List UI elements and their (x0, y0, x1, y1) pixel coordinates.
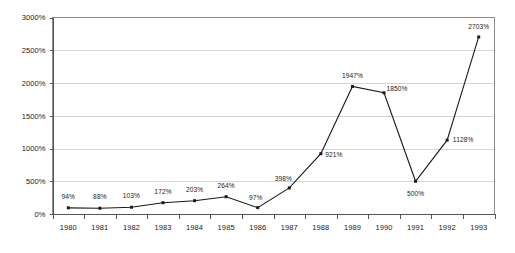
data-point-label-1990: 1850% (386, 85, 407, 92)
data-point-label-1988: 921% (325, 151, 342, 158)
data-point-marker-1993 (477, 35, 480, 38)
data-point-label-1980: 94% (62, 193, 76, 200)
x-axis-label-1982: 1982 (123, 223, 140, 232)
x-axis-label-1986: 1986 (249, 223, 266, 232)
data-point-label-1984: 203% (186, 186, 203, 193)
x-axis-label-1989: 1989 (344, 223, 361, 232)
data-point-marker-1983 (162, 201, 165, 204)
data-point-label-1982: 103% (123, 192, 140, 199)
line-chart: 0%500%1000%1500%2000%2500%3000% 19801981… (0, 0, 515, 253)
data-point-marker-1982 (130, 206, 133, 209)
x-axis-label-1992: 1992 (439, 223, 456, 232)
x-axis-label-1993: 1993 (470, 223, 487, 232)
x-axis-label-1988: 1988 (312, 223, 329, 232)
data-point-marker-1990 (383, 91, 386, 94)
data-point-label-1991: 500% (407, 190, 424, 197)
x-axis-label-1984: 1984 (186, 223, 203, 232)
data-point-label-1993: 2703% (468, 23, 489, 30)
data-point-label-1985: 264% (218, 182, 235, 189)
data-point-marker-1992 (446, 139, 449, 142)
y-axis-label-2000: 2000% (22, 79, 46, 88)
x-axis-label-1983: 1983 (154, 223, 171, 232)
data-point-marker-1991 (414, 180, 417, 183)
data-point-marker-1984 (193, 199, 196, 202)
data-point-label-1992: 1128% (453, 136, 474, 143)
x-axis-label-1987: 1987 (281, 223, 298, 232)
data-point-marker-1985 (225, 195, 228, 198)
data-point-marker-1989 (351, 85, 354, 88)
chart-background (0, 0, 515, 253)
y-axis-label-1500: 1500% (22, 112, 46, 121)
data-point-label-1989: 1947% (342, 72, 363, 79)
data-point-label-1983: 172% (154, 188, 171, 195)
data-point-marker-1981 (98, 207, 101, 210)
data-point-label-1981: 88% (93, 193, 107, 200)
y-axis-label-3000: 3000% (22, 13, 46, 22)
chart-canvas: 0%500%1000%1500%2000%2500%3000% 19801981… (0, 0, 515, 253)
x-axis-label-1980: 1980 (60, 223, 77, 232)
x-axis-label-1981: 1981 (91, 223, 108, 232)
y-axis-label-0: 0% (34, 210, 45, 219)
data-point-label-1986: 97% (249, 194, 263, 201)
y-axis-label-500: 500% (26, 177, 46, 186)
data-point-marker-1987 (288, 186, 291, 189)
data-point-marker-1980 (67, 206, 70, 209)
data-point-label-1987: 398% (275, 175, 292, 182)
x-axis-label-1990: 1990 (375, 223, 392, 232)
x-axis-label-1985: 1985 (218, 223, 235, 232)
y-axis-label-1000: 1000% (22, 144, 46, 153)
y-axis-label-2500: 2500% (22, 46, 46, 55)
x-axis-label-1991: 1991 (407, 223, 424, 232)
data-point-marker-1986 (256, 206, 259, 209)
data-point-marker-1988 (319, 152, 322, 155)
